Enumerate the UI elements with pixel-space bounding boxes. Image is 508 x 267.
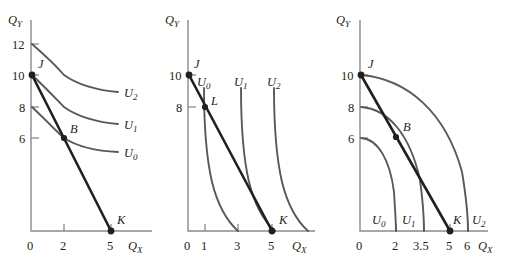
panel-a-svg: QY QX 12 10 8 6 0 2 5 J B K U0 U1 U2 xyxy=(0,0,170,267)
panel-a-curve-u2 xyxy=(32,44,118,92)
panel-c-point-b xyxy=(393,134,399,140)
panel-b-ylabel: QY xyxy=(165,13,180,29)
panel-c-xlabel: QX xyxy=(478,239,493,255)
panel-c-label-u0: U0 xyxy=(372,213,386,229)
chart-panel-b: QY QX 10 8 0 1 3 5 J L K U0 U1 U2 xyxy=(160,0,338,267)
panel-b-xticklabel-0: 0 xyxy=(184,239,190,253)
panel-c-label-b: B xyxy=(403,120,411,134)
panel-a-yticklabel-12: 12 xyxy=(12,38,25,52)
panel-b-label-j: J xyxy=(194,57,201,71)
panel-a-label-b: B xyxy=(70,122,78,136)
panel-c-xticklabel-35: 3.5 xyxy=(413,239,429,253)
panel-c-budget-line xyxy=(361,75,450,231)
panel-a-xticklabel-2: 2 xyxy=(60,239,66,253)
panel-c-xticklabel-6: 6 xyxy=(464,239,470,253)
panel-b-yticklabel-8: 8 xyxy=(176,101,182,115)
panel-a-label-u0: U0 xyxy=(124,146,138,162)
panel-c-yticklabel-10: 10 xyxy=(341,69,354,83)
panel-b-point-k xyxy=(269,228,276,235)
panel-c-label-j: J xyxy=(368,57,375,71)
panel-b-label-u1: U1 xyxy=(234,75,248,91)
panel-a-yticklabel-8: 8 xyxy=(19,101,25,115)
panel-b-label-u0: U0 xyxy=(197,75,211,91)
panel-c-axes xyxy=(360,20,488,231)
panel-b-yticklabel-10: 10 xyxy=(169,69,182,83)
panel-a-ylabel: QY xyxy=(8,13,23,29)
panel-c-ylabel: QY xyxy=(336,13,351,29)
panel-b-label-l: L xyxy=(210,94,218,108)
panel-b-point-j xyxy=(186,72,193,79)
panel-c-label-u2: U2 xyxy=(472,213,486,229)
panel-c-yticklabel-8: 8 xyxy=(348,101,354,115)
panel-c-point-k xyxy=(447,228,454,235)
panel-c-curve-u2 xyxy=(361,75,468,231)
panel-a-label-k: K xyxy=(116,213,126,227)
panel-a-xlabel: QX xyxy=(128,239,143,255)
panel-b-xticklabel-3: 3 xyxy=(234,239,240,253)
panel-b-xlabel: QX xyxy=(292,239,307,255)
panel-a-xticklabel-0: 0 xyxy=(27,239,33,253)
panel-b-curve-u2 xyxy=(274,88,308,231)
panel-c-yticklabel-6: 6 xyxy=(348,132,354,146)
panel-a-label-u2: U2 xyxy=(124,86,138,102)
panel-a-yticklabel-6: 6 xyxy=(19,132,25,146)
panel-a-label-j: J xyxy=(38,57,45,71)
panel-b-budget-line xyxy=(189,75,272,231)
panel-c-label-u1: U1 xyxy=(402,213,416,229)
panel-c-xticklabel-5: 5 xyxy=(446,239,452,253)
figure-container: QY QX 12 10 8 6 0 2 5 J B K U0 U1 U2 xyxy=(0,0,508,267)
panel-c-xticklabel-2: 2 xyxy=(392,239,398,253)
panel-b-xticklabel-1: 1 xyxy=(201,239,207,253)
panel-c-point-j xyxy=(358,72,365,79)
panel-b-point-l xyxy=(202,104,208,110)
panel-b-svg: QY QX 10 8 0 1 3 5 J L K U0 U1 U2 xyxy=(160,0,338,267)
chart-panel-a: QY QX 12 10 8 6 0 2 5 J B K U0 U1 U2 xyxy=(0,0,170,267)
panel-b-xticklabel-5: 5 xyxy=(268,239,274,253)
panel-a-yticklabel-10: 10 xyxy=(12,69,25,83)
panel-a-label-u1: U1 xyxy=(124,118,138,134)
panel-b-label-u2: U2 xyxy=(267,75,281,91)
panel-c-xticklabel-0: 0 xyxy=(356,239,362,253)
panel-b-label-k: K xyxy=(278,213,288,227)
panel-a-xticklabel-5: 5 xyxy=(107,239,113,253)
chart-panel-c: QY QX 10 8 6 0 2 3.5 5 6 J B K U0 U1 U2 xyxy=(330,0,508,267)
panel-b-curve-u1 xyxy=(241,88,275,231)
panel-c-svg: QY QX 10 8 6 0 2 3.5 5 6 J B K U0 U1 U2 xyxy=(330,0,508,267)
panel-a-point-k xyxy=(108,228,115,235)
panel-a-point-j xyxy=(29,72,36,79)
panel-b-axes xyxy=(188,20,315,231)
panel-c-label-k: K xyxy=(452,213,462,227)
panel-a-point-b xyxy=(61,135,67,141)
panel-a-budget-line xyxy=(32,75,111,231)
